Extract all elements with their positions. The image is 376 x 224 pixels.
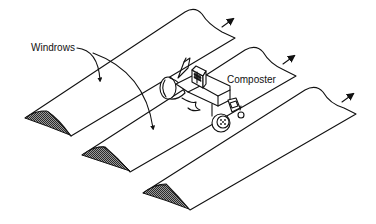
composter-wheel — [212, 114, 230, 132]
composter-label: Composter — [227, 74, 276, 85]
windrow-1-direction-arrow — [222, 19, 233, 27]
windrow-3-direction-arrow — [342, 94, 353, 102]
windrow-composting-diagram — [0, 0, 376, 224]
windrows-label: Windrows — [31, 42, 75, 53]
windrow-2-direction-arrow — [283, 56, 294, 64]
